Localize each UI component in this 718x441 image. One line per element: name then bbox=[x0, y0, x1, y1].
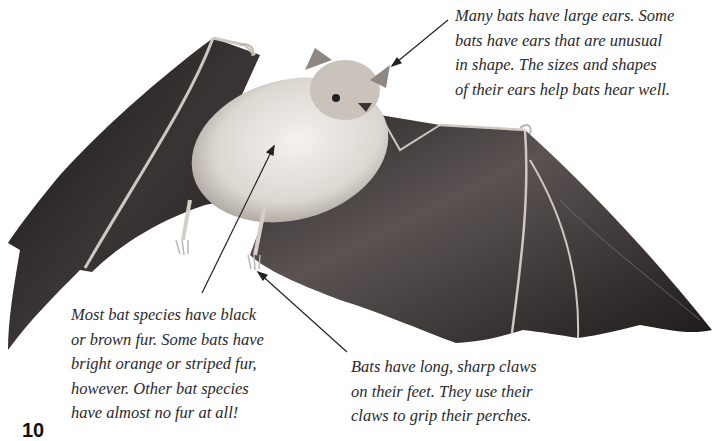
caption-line: on their feet. They use their bbox=[351, 380, 537, 405]
caption-line: in shape. The sizes and shapes bbox=[455, 53, 674, 78]
caption-line: have almost no fur at all! bbox=[71, 401, 264, 426]
caption-line: Bats have long, sharp claws bbox=[351, 355, 537, 380]
caption-line: of their ears help bats hear well. bbox=[455, 78, 674, 103]
caption-line: however. Other bat species bbox=[71, 377, 264, 402]
caption-fur: Most bat species have black or brown fur… bbox=[71, 303, 264, 426]
caption-line: Many bats have large ears. Some bbox=[455, 4, 674, 29]
caption-ears: Many bats have large ears. Some bats hav… bbox=[455, 4, 674, 102]
caption-claws: Bats have long, sharp claws on their fee… bbox=[351, 355, 537, 429]
caption-line: Most bat species have black bbox=[71, 303, 264, 328]
caption-line: bright orange or striped fur, bbox=[71, 352, 264, 377]
page-number: 10 bbox=[22, 420, 44, 440]
caption-line: bats have ears that are unusual bbox=[455, 29, 674, 54]
ear-pointer bbox=[392, 20, 448, 66]
caption-line: claws to grip their perches. bbox=[351, 404, 537, 429]
caption-line: or brown fur. Some bats have bbox=[71, 328, 264, 353]
